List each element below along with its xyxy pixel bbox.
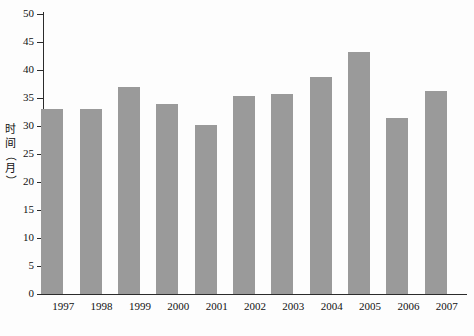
x-axis-line — [43, 294, 467, 295]
y-axis-tick — [37, 98, 44, 99]
y-axis-tick-label: 35 — [6, 92, 34, 103]
bar-chart: 时 间 （ 月 ） 05101520253035404550 199719981… — [0, 0, 474, 336]
bars-layer — [44, 0, 466, 294]
bar[interactable] — [80, 109, 102, 294]
bar[interactable] — [348, 52, 370, 294]
y-axis-tick-label: 50 — [6, 8, 34, 19]
x-axis-labels: 1997199819992000200120022003200420052006… — [44, 299, 466, 319]
bar[interactable] — [41, 109, 63, 294]
bar[interactable] — [425, 91, 447, 294]
y-axis-tick-label: 10 — [6, 232, 34, 243]
x-axis-tick-label: 2007 — [424, 299, 470, 313]
bar[interactable] — [156, 104, 178, 294]
y-axis-tick-label: 25 — [6, 148, 34, 159]
y-axis-tick-label: 45 — [6, 36, 34, 47]
y-axis-tick-label: 40 — [6, 64, 34, 75]
bar[interactable] — [195, 125, 217, 294]
y-axis-tick-label: 30 — [6, 120, 34, 131]
bar[interactable] — [118, 87, 140, 294]
bar[interactable] — [386, 118, 408, 294]
y-axis-tick — [37, 70, 44, 71]
bar[interactable] — [271, 94, 293, 294]
y-axis-tick-label: 20 — [6, 176, 34, 187]
bar[interactable] — [310, 77, 332, 294]
y-axis-tick-label: 5 — [6, 260, 34, 271]
y-axis-tick — [37, 294, 44, 295]
y-axis-tick-label: 0 — [6, 288, 34, 299]
y-axis-tick-label: 15 — [6, 204, 34, 215]
y-axis-tick — [37, 42, 44, 43]
bar[interactable] — [233, 96, 255, 294]
y-axis-tick — [37, 14, 44, 15]
